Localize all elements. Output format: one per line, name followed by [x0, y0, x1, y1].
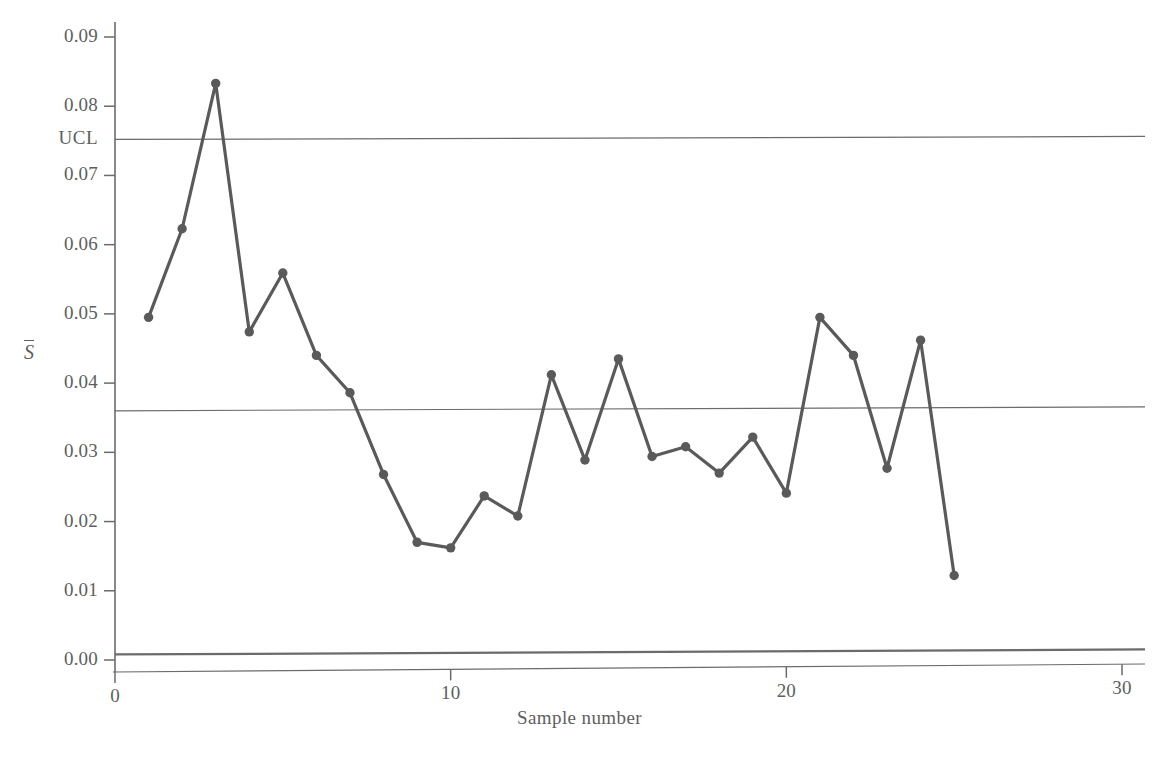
data-point-marker: [916, 335, 925, 344]
axes-group: [104, 22, 1145, 683]
data-point-marker: [849, 351, 858, 360]
data-point-marker: [211, 79, 220, 88]
data-point-marker: [547, 370, 556, 379]
y-axis-tick-label: 0.04: [46, 371, 98, 393]
data-point-marker: [782, 488, 791, 497]
ucl-label: UCL: [42, 127, 98, 149]
data-point-marker: [681, 442, 690, 451]
data-point-marker: [513, 511, 522, 520]
data-point-marker: [580, 455, 589, 464]
data-point-marker: [379, 470, 388, 479]
center-line: [115, 407, 1145, 411]
data-point-marker: [345, 388, 354, 397]
data-point-marker: [177, 224, 186, 233]
x-axis-spine: [113, 664, 1145, 672]
data-point-markers: [144, 79, 959, 581]
data-series-line: [149, 83, 955, 575]
data-point-marker: [312, 351, 321, 360]
lcl-line: [115, 649, 1145, 654]
data-point-marker: [647, 452, 656, 461]
ucl-line: [115, 136, 1145, 139]
y-axis-tick-label: 0.08: [46, 94, 98, 116]
y-axis-tick-label: 0.03: [46, 440, 98, 462]
data-point-marker: [815, 313, 824, 322]
data-point-marker: [882, 464, 891, 473]
control-chart: 0.000.010.020.030.040.050.060.070.080.09…: [0, 0, 1159, 758]
x-axis-tick-label: 30: [1092, 677, 1152, 699]
y-axis-title-text: S: [24, 340, 34, 363]
y-axis-tick-label: 0.02: [46, 510, 98, 532]
y-axis-tick-label: 0.09: [46, 25, 98, 47]
y-axis-tick-label: 0.06: [46, 233, 98, 255]
y-axis-tick-label: 0.00: [46, 648, 98, 670]
y-axis-tick-label: 0.01: [46, 579, 98, 601]
series-polyline: [149, 83, 955, 575]
data-point-marker: [614, 354, 623, 363]
x-axis-tick-label: 20: [756, 680, 816, 702]
data-point-marker: [480, 491, 489, 500]
data-point-marker: [748, 432, 757, 441]
y-axis-title: S: [24, 340, 34, 364]
data-point-marker: [278, 268, 287, 277]
data-point-marker: [245, 327, 254, 336]
data-point-marker: [949, 571, 958, 580]
x-axis-tick-label: 10: [421, 682, 481, 704]
y-axis-tick-label: 0.07: [46, 163, 98, 185]
data-point-marker: [144, 313, 153, 322]
y-axis-tick-label: 0.05: [46, 302, 98, 324]
data-point-marker: [715, 468, 724, 477]
x-axis-tick-label: 0: [85, 685, 145, 707]
data-point-marker: [412, 538, 421, 547]
x-axis-title: Sample number: [0, 707, 1159, 729]
chart-plot-area: [0, 0, 1159, 758]
data-point-marker: [446, 543, 455, 552]
